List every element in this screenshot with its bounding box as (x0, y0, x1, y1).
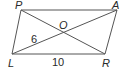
vertex-label-a: A (111, 0, 119, 11)
vertex-label-p: P (15, 0, 23, 11)
vertex-label-l: L (8, 57, 14, 69)
parallelogram-diagram: P A R L O 6 10 (0, 0, 126, 73)
measurement-lo: 6 (31, 33, 37, 45)
diagonal-pr (21, 10, 105, 54)
intersection-label-o: O (59, 19, 68, 31)
measurement-lr: 10 (52, 56, 64, 68)
vertex-label-r: R (102, 57, 110, 69)
diagram-canvas: P A R L O 6 10 (0, 0, 126, 73)
diagonal-la (12, 10, 117, 54)
